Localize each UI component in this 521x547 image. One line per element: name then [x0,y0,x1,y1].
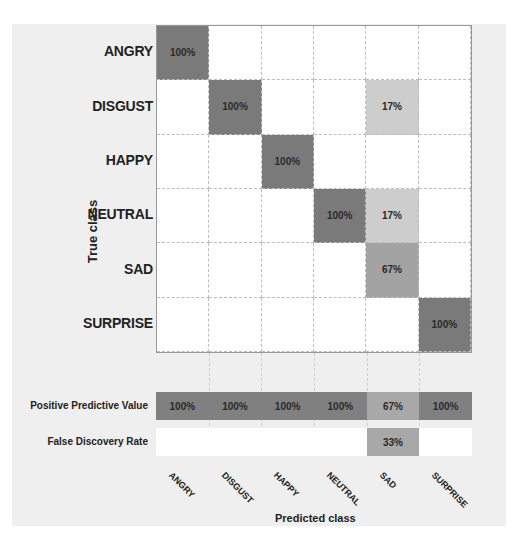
matrix-cell [209,135,261,189]
fdr-row: 33% [156,428,472,456]
x-axis-label: Predicted class [275,512,356,524]
matrix-cell [262,80,314,134]
matrix-cell [262,189,314,243]
ppv-cell: 100% [261,392,314,420]
matrix-cell [157,189,209,243]
matrix-cell [314,80,366,134]
ppv-cell: 100% [419,392,472,420]
matrix-cell [419,189,471,243]
fdr-cell [261,428,314,456]
matrix-cell: 17% [366,189,418,243]
matrix-cell [157,135,209,189]
matrix-cell [419,26,471,80]
matrix-cell [366,298,418,352]
ppv-cell: 100% [156,392,209,420]
matrix-cell: 67% [366,243,418,297]
matrix-cell [314,298,366,352]
matrix-cell [366,135,418,189]
ppv-cell: 100% [209,392,262,420]
row-label: DISGUST [13,98,153,114]
row-label: SAD [13,261,153,277]
matrix-cell [314,243,366,297]
ppv-cell: 67% [367,392,420,420]
matrix-cell: 100% [314,189,366,243]
y-axis-label: True class [85,192,100,272]
matrix-cell: 17% [366,80,418,134]
matrix-cell: 100% [157,26,209,80]
row-label: HAPPY [13,152,153,168]
matrix-cell [209,298,261,352]
matrix-cell [314,26,366,80]
fdr-label: False Discovery Rate [47,436,148,447]
fdr-cell [156,428,209,456]
row-label: ANGRY [13,43,153,59]
ppv-cell: 100% [314,392,367,420]
matrix-cell: 100% [262,135,314,189]
matrix-cell [209,26,261,80]
fdr-cell [419,428,472,456]
matrix-cell [157,298,209,352]
matrix-cell [209,189,261,243]
row-label: NEUTRAL [13,206,153,222]
matrix-cell [262,243,314,297]
matrix-cell [157,243,209,297]
separator-band [156,353,472,392]
matrix-cell [262,298,314,352]
matrix-cell [262,26,314,80]
row-label: SURPRISE [13,315,153,331]
matrix-cell: 100% [419,298,471,352]
ppv-label: Positive Predictive Value [30,400,148,411]
ppv-row: 100%100%100%100%67%100% [156,392,472,420]
matrix-cell: 100% [209,80,261,134]
fdr-cell: 33% [367,428,420,456]
matrix-cell [314,135,366,189]
matrix-cell [419,135,471,189]
matrix-cell [419,80,471,134]
fdr-cell [314,428,367,456]
matrix-cell [209,243,261,297]
matrix-cell [157,80,209,134]
matrix-cell [366,26,418,80]
fdr-cell [209,428,262,456]
matrix-cell [419,243,471,297]
confusion-matrix-grid: 100%100%17%100%100%17%67%100% [156,25,472,353]
